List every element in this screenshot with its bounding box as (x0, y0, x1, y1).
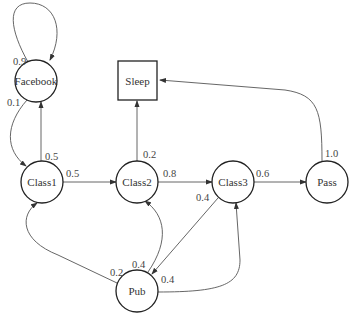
edge-label: 1.0 (325, 148, 338, 159)
node-class3: Class3 (212, 161, 254, 203)
node-label: Class2 (122, 176, 151, 188)
node-label: Pub (128, 285, 146, 297)
node-label: Sleep (125, 75, 150, 87)
edge-facebook-self (13, 3, 57, 62)
edge-label: 0.4 (196, 192, 210, 203)
node-label: Facebook (15, 75, 58, 87)
edge-label: 0.2 (110, 267, 123, 278)
edge-label: 0.9 (13, 56, 26, 67)
edge-label: 0.5 (66, 168, 79, 179)
markov-chain-diagram: Facebook Class1 Class2 Class3 Pass Pub S… (0, 0, 356, 324)
node-label: Class1 (27, 176, 56, 188)
edge-pub-class1 (26, 203, 117, 283)
edge-label: 0.5 (45, 151, 58, 162)
edge-label: 0.8 (163, 168, 176, 179)
edge-label: 0.4 (161, 274, 175, 285)
node-class2: Class2 (116, 161, 158, 203)
node-sleep: Sleep (118, 61, 157, 100)
edge-label: 0.4 (132, 259, 146, 270)
node-label: Class3 (218, 176, 248, 188)
edge-label: 0.2 (143, 149, 156, 160)
node-class1: Class1 (21, 161, 63, 203)
edge-pass-sleep (160, 80, 322, 161)
edge-label: 0.1 (7, 97, 20, 108)
node-pass: Pass (306, 161, 348, 203)
edge-facebook-class1 (10, 100, 27, 166)
edge-label: 0.6 (256, 168, 269, 179)
edge-pub-class2 (145, 201, 162, 272)
node-label: Pass (317, 176, 337, 188)
